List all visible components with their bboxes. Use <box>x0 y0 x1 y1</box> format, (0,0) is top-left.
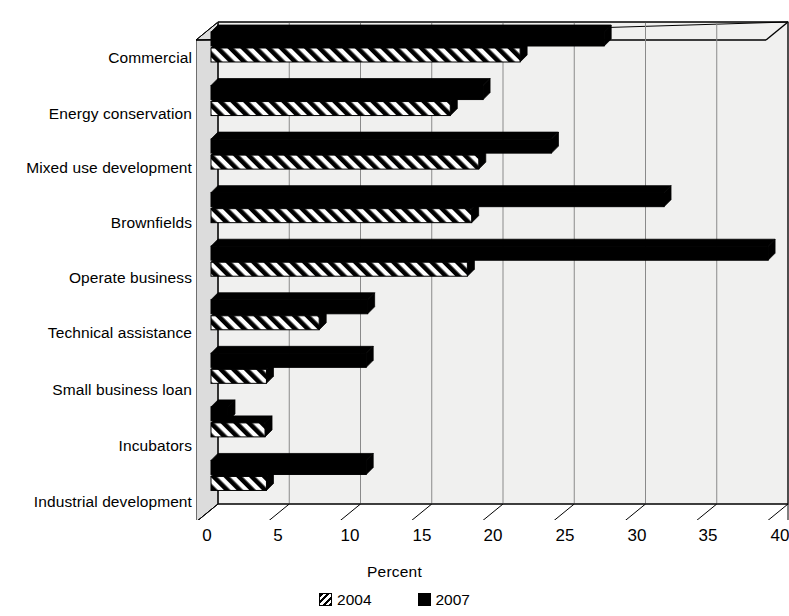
x-tick-label: 0 <box>202 527 211 544</box>
category-label: Mixed use development <box>26 160 192 176</box>
legend-label: 2004 <box>337 592 371 608</box>
horizontal-bar-chart: Commercial Energy conservation Mixed use… <box>0 0 789 616</box>
solid-square-icon <box>418 593 431 606</box>
bar-2004 <box>211 95 457 116</box>
bar-2004 <box>211 148 486 169</box>
bar-2004 <box>211 41 527 62</box>
bar-2004 <box>211 362 273 383</box>
category-label: Energy conservation <box>49 106 192 122</box>
x-axis-title: Percent <box>0 563 789 581</box>
x-tick-label: 25 <box>556 527 575 544</box>
legend-item-2007: 2007 <box>418 592 470 608</box>
x-tick-label: 15 <box>413 527 432 544</box>
bar-2004 <box>211 309 326 330</box>
category-axis-labels: Commercial Energy conservation Mixed use… <box>0 8 196 516</box>
category-label: Brownfields <box>111 215 192 231</box>
category-label: Commercial <box>108 50 192 66</box>
category-label: Industrial development <box>34 494 192 510</box>
x-tick-label: 35 <box>699 527 718 544</box>
bar-2004 <box>211 416 272 437</box>
plot-area <box>196 4 789 520</box>
x-tick-label: 20 <box>484 527 503 544</box>
category-label: Operate business <box>69 270 192 286</box>
x-tick-label: 10 <box>341 527 360 544</box>
chart-legend: 2004 2007 <box>0 592 789 608</box>
hatched-square-icon <box>319 593 332 606</box>
legend-item-2004: 2004 <box>319 592 371 608</box>
legend-label: 2007 <box>436 592 470 608</box>
category-label: Incubators <box>119 438 192 454</box>
bar-2004 <box>211 469 273 490</box>
x-tick-label: 40 <box>771 527 789 544</box>
bar-2004 <box>211 202 479 223</box>
bar-2004 <box>211 255 474 276</box>
x-tick-label: 30 <box>628 527 647 544</box>
category-label: Small business loan <box>52 382 192 398</box>
x-tick-label: 5 <box>273 527 282 544</box>
x-axis-tick-labels: 0 5 10 15 20 25 30 35 40 <box>196 527 789 551</box>
chart-canvas <box>196 4 789 520</box>
category-label: Technical assistance <box>48 325 192 341</box>
